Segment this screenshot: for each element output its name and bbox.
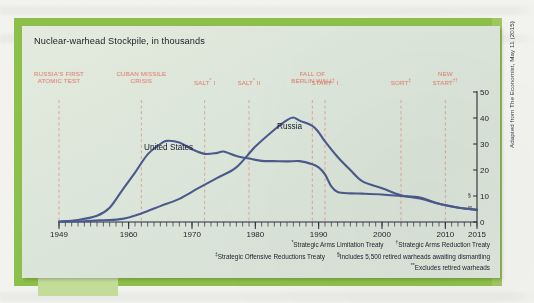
footnote-3: §Includes 5,500 retired warheads awaitin… [337, 253, 490, 260]
series-path-united-states [59, 141, 477, 222]
data-series-lines [59, 117, 477, 221]
y-tick-label-10: 10 [480, 192, 489, 201]
footnote-0: *Strategic Arms Limitation Treaty [291, 241, 383, 248]
series-label-united-states: United States [144, 143, 193, 152]
y-tick-label-50: 50 [480, 88, 489, 97]
y-axis-marker-section: § [468, 192, 471, 198]
footnote-row-1: ‡Strategic Offensive Reductions Treaty§I… [34, 250, 490, 262]
event-label-new-start: NEWSTART†† [432, 70, 458, 87]
y-tick-label-30: 30 [480, 140, 489, 149]
y-tick-label-20: 20 [480, 166, 489, 175]
page-bleed-line [0, 6, 534, 15]
event-label-russias-first-atomic-test: RUSSIA'S FIRSTATOMIC TEST [34, 70, 84, 85]
series-label-russia: Russia [277, 122, 302, 131]
y-axis-marker-double: ** [468, 205, 472, 211]
footnote-block: *Strategic Arms Limitation Treaty†Strate… [34, 238, 490, 273]
chart-card: Nuclear-warhead Stockpile, in thousands … [22, 26, 500, 278]
y-axis-ticks [473, 92, 477, 222]
event-label-start-1: START† I [312, 77, 339, 86]
footnote-row-2: **Excludes retired warheads [34, 261, 490, 273]
event-label-cuban-missile-crisis: CUBAN MISSILECRISIS [116, 70, 166, 85]
scanned-page-background: Nuclear-warhead Stockpile, in thousands … [0, 0, 534, 303]
y-tick-label-40: 40 [480, 114, 489, 123]
axis-lines [59, 91, 477, 222]
event-marker-lines [59, 100, 445, 222]
event-label-sort: SORT‡ [391, 77, 411, 86]
event-label-salt-1: SALT* I [194, 77, 215, 86]
x-axis-ticks [59, 222, 477, 229]
source-attribution: Adapted from The Economist, May 11 (2015… [508, 21, 515, 148]
footnote-row-0: *Strategic Arms Limitation Treaty†Strate… [34, 238, 490, 250]
y-tick-label-0: 0 [480, 218, 484, 227]
series-path-russia [59, 117, 477, 221]
footnote-1: †Strategic Arms Reduction Treaty [396, 241, 490, 248]
footnote-4: **Excludes retired warheads [411, 264, 490, 271]
event-label-salt-2: SALT* II [237, 77, 260, 86]
footnote-2: ‡Strategic Offensive Reductions Treaty [215, 253, 325, 260]
